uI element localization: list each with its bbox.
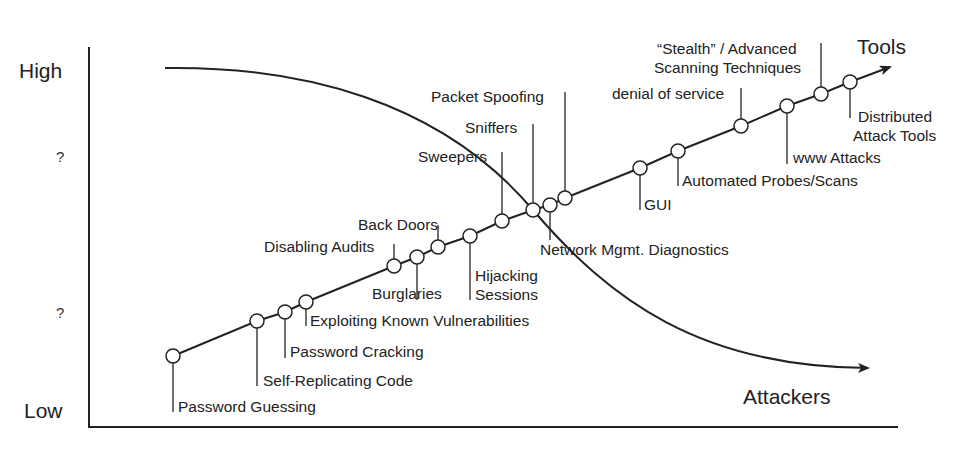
- label-gui: GUI: [644, 196, 672, 213]
- label-sweepers: Sweepers: [418, 148, 487, 165]
- node-password-cracking: [278, 305, 292, 319]
- y-label-question-lower: ?: [56, 304, 64, 321]
- label-burglaries: Burglaries: [372, 285, 442, 302]
- node-denial-of-service: [734, 119, 748, 133]
- label-disabling-audits: Disabling Audits: [264, 238, 375, 255]
- node-gui: [633, 161, 647, 175]
- y-label-low: Low: [24, 399, 63, 422]
- label-www-attacks: www Attacks: [792, 149, 881, 166]
- node-password-guessing: [166, 349, 180, 363]
- node-burglaries: [410, 250, 424, 264]
- node-automated-probes: [671, 144, 685, 158]
- label-password-guessing: Password Guessing: [178, 398, 316, 415]
- label-stealth-line1: “Stealth” / Advanced: [657, 40, 797, 57]
- label-sniffers: Sniffers: [465, 119, 518, 136]
- label-exploiting-known-vulnerabilities: Exploiting Known Vulnerabilities: [310, 312, 529, 329]
- node-sweepers: [495, 214, 509, 228]
- node-exploiting-known-vulnerabilities: [299, 295, 313, 309]
- y-label-high: High: [19, 59, 62, 82]
- attackers-label: Attackers: [743, 385, 831, 408]
- node-back-doors: [431, 240, 445, 254]
- node-self-replicating-code: [250, 314, 264, 328]
- node-network-mgmt-diagnostics: [543, 198, 557, 212]
- label-distributed-line2: Attack Tools: [853, 127, 937, 144]
- attack-sophistication-diagram: High ? ? Low Attackers Tools: [0, 0, 968, 455]
- label-packet-spoofing: Packet Spoofing: [431, 88, 544, 105]
- node-packet-spoofing: [558, 191, 572, 205]
- label-hijacking-line2: Sessions: [475, 286, 538, 303]
- label-automated-probes: Automated Probes/Scans: [682, 172, 858, 189]
- label-distributed-line1: Distributed: [858, 108, 932, 125]
- node-www-attacks: [780, 99, 794, 113]
- node-sniffers: [526, 203, 540, 217]
- tools-label: Tools: [857, 35, 906, 58]
- label-self-replicating-code: Self-Replicating Code: [263, 372, 413, 389]
- label-password-cracking: Password Cracking: [290, 343, 424, 360]
- node-distributed-attack-tools: [843, 75, 857, 89]
- y-label-question-upper: ?: [56, 148, 64, 165]
- label-denial-of-service: denial of service: [612, 85, 724, 102]
- label-back-doors: Back Doors: [358, 216, 438, 233]
- node-stealth-scanning: [814, 87, 828, 101]
- node-hijacking-sessions: [463, 229, 477, 243]
- node-disabling-audits: [387, 259, 401, 273]
- label-hijacking-line1: Hijacking: [475, 267, 538, 284]
- label-network-mgmt-diagnostics: Network Mgmt. Diagnostics: [540, 241, 729, 258]
- label-stealth-line2: Scanning Techniques: [654, 59, 801, 76]
